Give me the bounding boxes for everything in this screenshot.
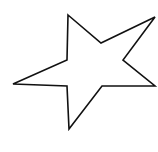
drawing-canvas <box>0 0 158 152</box>
star-outline <box>13 15 155 129</box>
star-icon <box>0 0 158 152</box>
